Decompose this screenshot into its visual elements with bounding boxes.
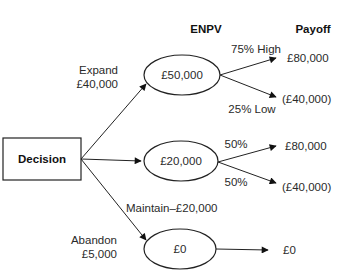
expand-high-label: 75% High	[231, 43, 281, 55]
abandon-branch-arrow	[81, 159, 146, 240]
expand-cost: £40,000	[76, 78, 118, 90]
maintain-up-payoff: £80,000	[285, 140, 327, 152]
maintain-down-payoff: (£40,000)	[282, 181, 331, 193]
expand-chance-node: £50,000	[144, 55, 220, 95]
expand-low-label: 25% Low	[228, 103, 276, 115]
expand-branch-arrow	[81, 84, 146, 159]
decision-node: Decision	[3, 138, 81, 180]
expand-low-arrow	[220, 75, 276, 97]
payoff-header: Payoff	[295, 23, 330, 35]
maintain-up-label: 50%	[224, 138, 247, 150]
enpv-header: ENPV	[190, 23, 222, 35]
maintain-branch-arrow	[81, 159, 141, 161]
abandon-enpv: £0	[174, 243, 187, 255]
expand-enpv: £50,000	[161, 69, 203, 81]
expand-low-payoff: (£40,000)	[282, 93, 331, 105]
expand-high-payoff: £80,000	[287, 52, 329, 64]
expand-label: Expand	[79, 64, 118, 76]
decision-tree-diagram: ENPV Payoff Decision Expand £40,000 Main…	[0, 0, 337, 278]
decision-label: Decision	[18, 153, 66, 165]
abandon-node: £0	[144, 229, 216, 269]
maintain-enpv: £20,000	[160, 155, 202, 167]
abandon-cost: £5,000	[82, 248, 117, 260]
maintain-down-label: 50%	[224, 176, 247, 188]
abandon-label: Abandon	[71, 234, 117, 246]
maintain-label: Maintain–£20,000	[126, 202, 217, 214]
abandon-payoff: £0	[283, 244, 296, 256]
abandon-outcome-arrow	[216, 249, 268, 250]
expand-high-arrow	[220, 58, 276, 75]
maintain-chance-node: £20,000	[144, 141, 218, 181]
